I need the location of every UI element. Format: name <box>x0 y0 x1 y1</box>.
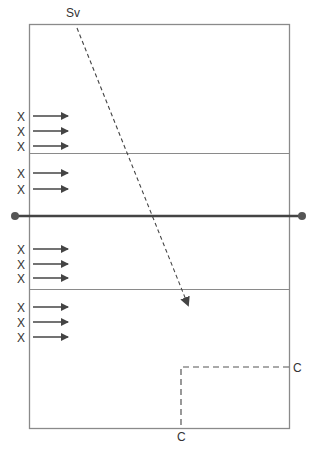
corner-label-bottom: C <box>177 430 186 444</box>
player-marker: X <box>17 258 25 272</box>
player-marker: X <box>17 110 25 124</box>
player-marker: X <box>17 125 25 139</box>
player-marker: X <box>17 272 25 286</box>
corner-label-right: C <box>293 361 302 375</box>
player-arrows <box>33 116 68 337</box>
player-marker: X <box>17 301 25 315</box>
serve-trajectory-arrow <box>77 28 188 305</box>
net-post-left <box>11 212 19 220</box>
player-marker: X <box>17 331 25 345</box>
player-marker: X <box>17 316 25 330</box>
volleyball-court-diagram: Sv X X X X X X X X X X X C C <box>0 0 315 450</box>
target-zone-dashed <box>181 367 289 428</box>
player-marker: X <box>17 140 25 154</box>
court-boundary <box>30 25 290 429</box>
net-post-right <box>298 212 306 220</box>
player-marker: X <box>17 183 25 197</box>
player-marker: X <box>17 167 25 181</box>
server-label: Sv <box>66 6 80 20</box>
player-marker: X <box>17 243 25 257</box>
